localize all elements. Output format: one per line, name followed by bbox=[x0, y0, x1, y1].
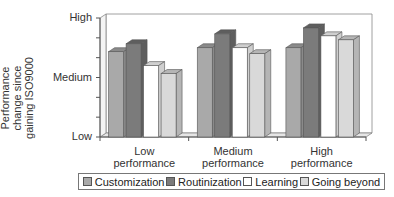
bar-customization bbox=[109, 52, 124, 137]
legend-swatch bbox=[243, 177, 252, 186]
bar-going-beyond bbox=[338, 40, 353, 137]
bar-side-face bbox=[265, 50, 271, 137]
legend-item-learning: Learning bbox=[243, 176, 298, 188]
bar-learning bbox=[321, 36, 336, 137]
bar-customization bbox=[197, 48, 212, 137]
legend-label: Routinization bbox=[178, 176, 242, 188]
legend-swatch bbox=[166, 177, 175, 186]
bar-routinization bbox=[126, 44, 141, 137]
bar-going-beyond bbox=[250, 54, 265, 137]
legend-item-customization: Customization bbox=[83, 176, 165, 188]
legend-item-routinization: Routinization bbox=[166, 176, 242, 188]
bar-going-beyond bbox=[161, 74, 176, 137]
legend-swatch bbox=[83, 177, 92, 186]
legend-swatch bbox=[300, 177, 309, 186]
legend-label: Learning bbox=[255, 176, 298, 188]
bar-side-face bbox=[353, 36, 359, 137]
bar-learning bbox=[144, 66, 159, 137]
bar-side-face bbox=[176, 70, 182, 137]
legend-label: Going beyond bbox=[312, 176, 381, 188]
x-label-high-performance: Highperformance bbox=[277, 145, 367, 169]
legend-item-going-beyond: Going beyond bbox=[300, 176, 381, 188]
x-label-medium-performance: Mediumperformance bbox=[188, 145, 278, 169]
bar-customization bbox=[286, 48, 301, 137]
bar-routinization bbox=[215, 34, 230, 137]
bar-learning bbox=[232, 48, 247, 137]
bar-routinization bbox=[303, 28, 318, 137]
chart-legend: CustomizationRoutinizationLearningGoing … bbox=[78, 173, 385, 190]
x-label-low-performance: Lowperformance bbox=[99, 145, 189, 169]
side-wall bbox=[100, 14, 106, 137]
legend-label: Customization bbox=[95, 176, 165, 188]
